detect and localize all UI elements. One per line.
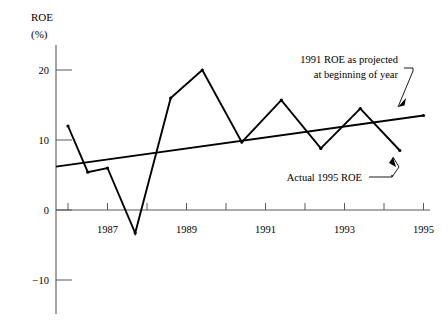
actual-roe-series-line: [68, 70, 400, 233]
projected-annotation-line1: 1991 ROE as projected: [300, 54, 398, 65]
projected-annotation-arrow: [398, 68, 413, 107]
data-point: [134, 232, 137, 235]
trend-end-point: [422, 114, 425, 117]
data-point: [201, 68, 204, 71]
data-point: [86, 171, 89, 174]
y-tick-label-10: 10: [39, 135, 50, 146]
projected-roe-trend-line: [56, 116, 424, 167]
x-tick-label-1987: 1987: [97, 224, 118, 235]
x-tick-label-1991: 1991: [255, 224, 276, 235]
x-tick-marks: [68, 203, 424, 210]
data-point: [66, 124, 69, 127]
y-tick-label-neg10: −10: [33, 275, 49, 286]
y-tick-label-20: 20: [39, 65, 50, 76]
chart-canvas: ROE (%) 20 10 0 −10 1987 1989 1991 1993 …: [0, 0, 448, 324]
x-tick-label-1995: 1995: [413, 224, 434, 235]
x-tick-label-1989: 1989: [176, 224, 197, 235]
data-point: [280, 99, 283, 102]
data-point: [169, 96, 172, 99]
data-point: [398, 149, 401, 152]
data-point: [319, 147, 322, 150]
roe-chart: ROE (%) 20 10 0 −10 1987 1989 1991 1993 …: [0, 0, 448, 324]
y-tick-label-0: 0: [44, 205, 49, 216]
actual-annotation-arrow: [369, 157, 399, 177]
y-axis-title: ROE: [31, 11, 53, 23]
actual-annotation-line1: Actual 1995 ROE: [287, 172, 362, 183]
y-tick-marks: [56, 70, 72, 280]
y-axis-unit: (%): [31, 28, 48, 41]
data-point: [359, 107, 362, 110]
x-tick-label-1993: 1993: [334, 224, 355, 235]
data-point: [240, 141, 243, 144]
projected-annotation-line2: at beginning of year: [314, 69, 399, 80]
data-point: [106, 166, 109, 169]
